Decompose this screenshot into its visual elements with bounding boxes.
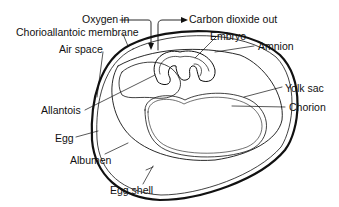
label-oxygen-in: Oxygen in — [82, 13, 129, 25]
shell-membrane — [97, 36, 292, 195]
label-embryo: Embryo — [210, 30, 246, 42]
label-albumen: Albumen — [70, 154, 111, 166]
label-egg-shell: Egg shell — [110, 184, 153, 196]
label-chorioallantoic-membrane: Chorioallantoic membrane — [16, 26, 139, 38]
egg-shell-outline — [92, 31, 298, 200]
label-amnion: Amnion — [258, 40, 294, 52]
label-chorion: Chorion — [289, 101, 326, 113]
yolk-sac-outline — [145, 93, 267, 157]
label-allantois: Allantois — [41, 104, 81, 116]
allantois-outline — [119, 62, 180, 98]
label-egg: Egg — [55, 132, 74, 144]
egg-diagram: Oxygen in Carbon dioxide out Chorioallan… — [0, 0, 339, 207]
label-air-space: Air space — [59, 43, 103, 55]
label-yolk-sac: Yolk sac — [285, 82, 324, 94]
label-co2-out: Carbon dioxide out — [189, 13, 277, 25]
